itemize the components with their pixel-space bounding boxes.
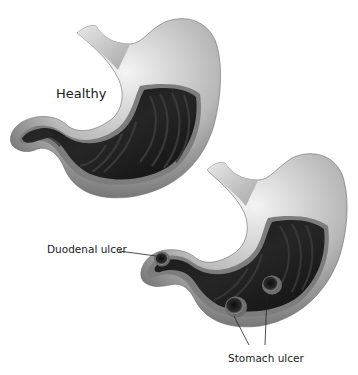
healthy-label: Healthy bbox=[56, 87, 106, 100]
stomach-comparison-illustration bbox=[0, 0, 358, 375]
healthy-stomach bbox=[10, 19, 220, 198]
stomach-ulcer-crater-2 bbox=[262, 276, 282, 295]
duodenal-ulcer-crater bbox=[154, 252, 170, 267]
stomach-ulcer-crater-1 bbox=[225, 297, 247, 318]
duodenal-ulcer-label: Duodenal ulcer bbox=[47, 244, 127, 255]
stomach-ulcer-label: Stomach ulcer bbox=[228, 353, 304, 364]
